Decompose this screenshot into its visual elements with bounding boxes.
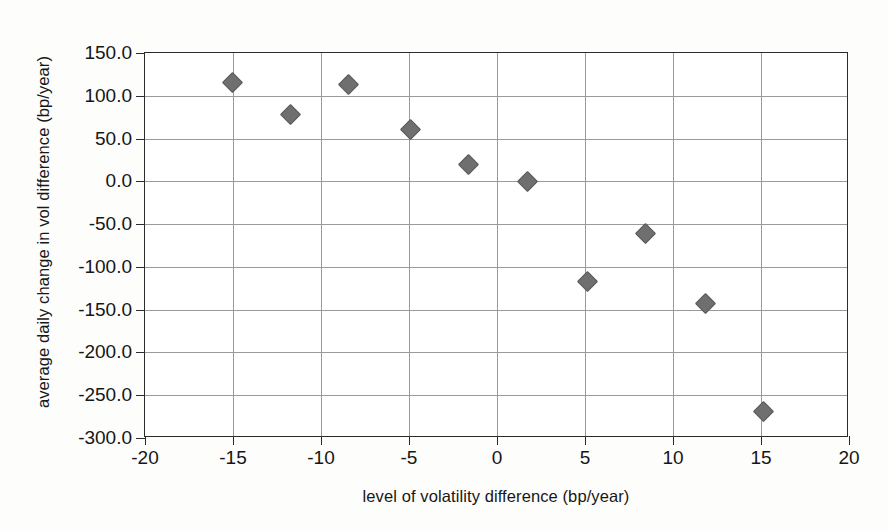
x-tick-mark — [409, 436, 410, 445]
y-axis-title: average daily change in vol difference (… — [28, 2, 58, 462]
x-axis-title: level of volatility difference (bp/year) — [144, 487, 848, 506]
x-tick-mark — [585, 436, 586, 445]
data-point-marker — [695, 293, 716, 314]
x-tick-label: -20 — [131, 447, 158, 469]
x-tick-mark — [233, 436, 234, 445]
y-tick-label: 150.0 — [84, 42, 132, 64]
y-tick-label: 100.0 — [84, 85, 132, 107]
x-tick-mark — [673, 436, 674, 445]
x-tick-label: 15 — [750, 447, 771, 469]
gridline-vertical — [233, 53, 234, 436]
y-tick-mark — [136, 96, 145, 97]
gridline-vertical — [409, 53, 410, 436]
y-tick-mark — [136, 310, 145, 311]
y-tick-label: -300.0 — [78, 427, 132, 449]
gridline-horizontal — [145, 267, 847, 268]
gridline-horizontal — [145, 139, 847, 140]
y-tick-label: -200.0 — [78, 341, 132, 363]
y-tick-label: -250.0 — [78, 384, 132, 406]
data-point-marker — [399, 119, 420, 140]
gridline-vertical — [497, 53, 498, 436]
data-point-marker — [517, 171, 538, 192]
gridline-horizontal — [145, 181, 847, 182]
data-point-marker — [457, 154, 478, 175]
gridline-horizontal — [145, 224, 847, 225]
y-tick-mark — [136, 267, 145, 268]
x-tick-label: 0 — [492, 447, 503, 469]
x-tick-label: 5 — [580, 447, 591, 469]
x-tick-label: 20 — [838, 447, 859, 469]
x-tick-label: -10 — [307, 447, 334, 469]
y-tick-label: -50.0 — [89, 213, 132, 235]
x-tick-mark — [145, 436, 146, 445]
y-tick-mark — [136, 139, 145, 140]
gridline-vertical — [761, 53, 762, 436]
y-tick-label: 0.0 — [106, 170, 132, 192]
gridline-horizontal — [145, 395, 847, 396]
gridline-vertical — [673, 53, 674, 436]
gridline-horizontal — [145, 310, 847, 311]
data-point-marker — [753, 401, 774, 422]
x-tick-mark — [761, 436, 762, 445]
y-tick-label: -100.0 — [78, 256, 132, 278]
data-point-marker — [280, 104, 301, 125]
data-point-marker — [635, 223, 656, 244]
x-tick-label: -15 — [219, 447, 246, 469]
data-point-marker — [338, 74, 359, 95]
y-tick-label: 50.0 — [95, 128, 132, 150]
x-tick-label: 10 — [662, 447, 683, 469]
x-tick-mark — [849, 436, 850, 445]
gridline-horizontal — [145, 352, 847, 353]
plot-area: 150.0100.050.00.0-50.0-100.0-150.0-200.0… — [144, 52, 848, 437]
gridline-horizontal — [145, 96, 847, 97]
y-tick-label: -150.0 — [78, 299, 132, 321]
y-tick-mark — [136, 53, 145, 54]
y-tick-mark — [136, 181, 145, 182]
x-tick-mark — [497, 436, 498, 445]
y-tick-mark — [136, 438, 145, 439]
gridline-vertical — [321, 53, 322, 436]
y-tick-mark — [136, 352, 145, 353]
y-tick-mark — [136, 395, 145, 396]
chart-figure: average daily change in vol difference (… — [0, 0, 888, 531]
y-tick-mark — [136, 224, 145, 225]
data-point-marker — [577, 271, 598, 292]
x-tick-mark — [321, 436, 322, 445]
data-point-marker — [222, 72, 243, 93]
x-tick-label: -5 — [401, 447, 418, 469]
gridline-vertical — [585, 53, 586, 436]
